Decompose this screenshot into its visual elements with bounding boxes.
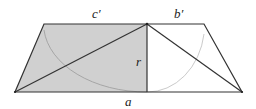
label-c-prime: c′ <box>92 6 101 21</box>
right-diagonal <box>147 24 242 92</box>
trapezoid-diagram: c′ b′ r a <box>0 0 256 109</box>
label-b-prime: b′ <box>174 6 184 21</box>
vertex-top-mid <box>146 23 149 26</box>
vertex-bottom-left <box>14 91 16 93</box>
vertex-bottom-right <box>241 91 243 93</box>
right-arc <box>147 34 204 92</box>
label-a: a <box>125 94 132 109</box>
